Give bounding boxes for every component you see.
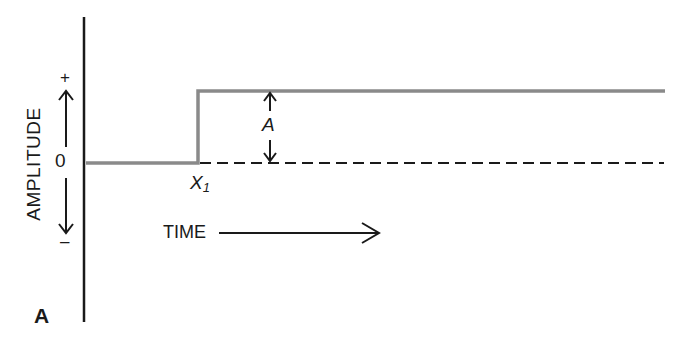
positive-label: + bbox=[60, 68, 70, 88]
step-point-label: X1 bbox=[190, 172, 210, 195]
step-signal bbox=[86, 91, 665, 163]
amplitude-down-arrow-icon bbox=[59, 178, 73, 233]
zero-label: 0 bbox=[55, 150, 66, 172]
amplitude-axis-label: AMPLITUDE bbox=[23, 107, 45, 220]
step-point-letter: X bbox=[190, 172, 203, 193]
time-axis-label: TIME bbox=[163, 222, 206, 243]
step-diagram-canvas bbox=[0, 0, 699, 344]
time-arrow-icon bbox=[219, 223, 379, 243]
negative-label: – bbox=[60, 232, 69, 252]
panel-label: A bbox=[34, 304, 49, 328]
amplitude-value-label: A bbox=[262, 114, 275, 136]
amplitude-up-arrow-icon bbox=[59, 91, 73, 147]
step-point-subscript: 1 bbox=[203, 180, 210, 195]
